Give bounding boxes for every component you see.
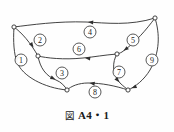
edge-label-text: 2 bbox=[38, 36, 42, 45]
graph-vertex bbox=[36, 54, 40, 58]
edge-arrowhead bbox=[85, 56, 91, 61]
edge-label-text: 6 bbox=[77, 45, 81, 54]
edge-arrowhead bbox=[50, 76, 56, 82]
edge-label-text: 8 bbox=[93, 88, 97, 97]
edge-label-text: 5 bbox=[131, 36, 135, 45]
edge-label-text: 4 bbox=[88, 28, 92, 37]
graph-vertex bbox=[153, 16, 157, 20]
graph-edge bbox=[14, 18, 155, 27]
graph-vertex bbox=[65, 88, 69, 92]
edge-label-text: 1 bbox=[19, 56, 23, 65]
graph-vertex bbox=[126, 88, 130, 92]
graph-vertex bbox=[115, 52, 119, 56]
figure-caption-mark: 図 bbox=[65, 110, 75, 121]
figure-caption: 図A4・1 bbox=[0, 106, 174, 122]
figure-caption-text: A4・1 bbox=[78, 109, 110, 121]
graph-vertex bbox=[12, 25, 16, 29]
edge-label-text: 3 bbox=[60, 69, 64, 78]
vertices-layer bbox=[12, 16, 157, 92]
edge-label-text: 7 bbox=[117, 68, 121, 77]
edge-label-text: 9 bbox=[150, 56, 154, 65]
edge-arrowhead bbox=[88, 20, 93, 24]
edge-arrowhead bbox=[89, 81, 95, 86]
figure-container: 123456789 図A4・1 bbox=[0, 0, 174, 132]
